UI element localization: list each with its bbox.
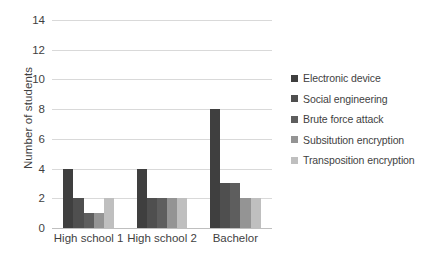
gridline [52,228,272,229]
bar-chart-figure: Number of students 02468101214 High scho… [0,0,437,258]
bar [137,169,147,228]
bar [220,183,230,228]
bar [251,198,261,228]
legend-swatch-icon [291,136,298,143]
legend-label: Brute force attack [303,113,384,125]
y-tick-label: 10 [32,73,45,85]
legend-label: Transposition encryption [303,154,415,166]
bar [240,198,250,228]
y-tick-label: 12 [32,44,45,56]
bar [147,198,157,228]
x-tick-label: High school 1 [54,232,124,244]
bar-group [137,20,188,228]
x-tick-label: High school 2 [127,232,197,244]
legend-swatch-icon [291,157,298,164]
legend-swatch-icon [291,95,298,102]
bar [94,213,104,228]
bar [230,183,240,228]
legend-label: Social engineering [303,93,388,105]
bar [73,198,83,228]
bar-group [63,20,114,228]
bars-layer [52,20,272,228]
x-axis-ticks: High school 1High school 2Bachelor [52,232,272,252]
plot-area: 02468101214 [52,20,272,228]
legend-item[interactable]: Brute force attack [291,111,437,128]
legend-item[interactable]: Subsitution encryption [291,132,437,149]
y-axis-title: Number of students [22,38,34,198]
bar [104,198,114,228]
bar [167,198,177,228]
x-tick-label: Bachelor [213,232,258,244]
legend-swatch-icon [291,75,298,82]
chart-legend: Electronic deviceSocial engineeringBrute… [291,70,437,173]
legend-item[interactable]: Electronic device [291,70,437,87]
bar [63,169,73,228]
y-tick-label: 14 [32,14,45,26]
y-tick-label: 0 [39,222,45,234]
bar [177,198,187,228]
legend-item[interactable]: Social engineering [291,91,437,108]
bar [157,198,167,228]
legend-label: Subsitution encryption [303,134,404,146]
bar [210,109,220,228]
y-tick-label: 8 [39,103,45,115]
bar-group [210,20,261,228]
bar [84,213,94,228]
y-tick-label: 4 [39,163,45,175]
legend-label: Electronic device [303,72,381,84]
y-tick-label: 6 [39,133,45,145]
legend-item[interactable]: Transposition encryption [291,152,437,169]
y-tick-label: 2 [39,192,45,204]
legend-swatch-icon [291,116,298,123]
